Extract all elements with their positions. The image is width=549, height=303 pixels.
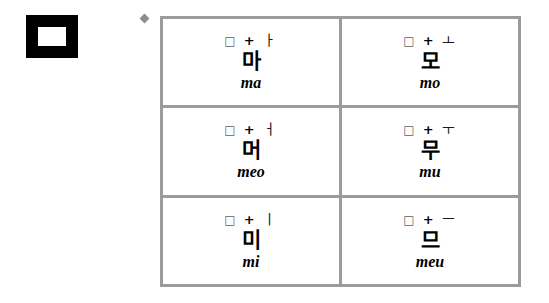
- consonant-placeholder: □: [224, 123, 237, 137]
- syllable-cell-mi: □ + ㅣ 미 mi: [162, 196, 341, 285]
- consonant-placeholder: □: [403, 213, 416, 227]
- cell-content: □ + ㅡ 므 meu: [342, 212, 518, 270]
- table-row: □ + ㅏ 마 ma □ + ㅗ: [162, 18, 520, 107]
- consonant-placeholder: □: [224, 213, 237, 227]
- syllable-cell-ma: □ + ㅏ 마 ma: [162, 18, 341, 107]
- formula-line: □ + ㅓ: [224, 122, 278, 136]
- romanization-label: meo: [237, 164, 265, 180]
- romanization-label: mu: [419, 164, 440, 180]
- plus-operator: +: [423, 33, 436, 48]
- vowel-jamo: ㅏ: [263, 32, 278, 48]
- vowel-jamo: ㅣ: [263, 211, 278, 227]
- romanization-label: ma: [241, 75, 261, 91]
- vowel-jamo: ㅗ: [442, 32, 457, 48]
- vowel-jamo: ㅜ: [442, 121, 457, 137]
- plus-operator: +: [423, 122, 436, 137]
- diamond-bullet-icon: [140, 14, 150, 24]
- romanization-label: mo: [420, 75, 440, 91]
- cell-content: □ + ㅓ 머 meo: [163, 122, 339, 180]
- consonant-placeholder: □: [403, 34, 416, 48]
- syllable-glyph: 므: [421, 230, 440, 251]
- table-row: □ + ㅓ 머 meo □ + ㅜ: [162, 107, 520, 196]
- syllable-glyph: 마: [242, 51, 261, 72]
- cell-content: □ + ㅗ 모 mo: [342, 33, 518, 91]
- syllable-table-body: □ + ㅏ 마 ma □ + ㅗ: [162, 18, 520, 286]
- consonant-glyph-inner: [38, 27, 66, 46]
- page-root: □ + ㅏ 마 ma □ + ㅗ: [0, 0, 549, 303]
- plus-operator: +: [423, 212, 436, 227]
- formula-line: □ + ㅜ: [403, 122, 457, 136]
- cell-content: □ + ㅣ 미 mi: [163, 212, 339, 270]
- syllable-cell-mo: □ + ㅗ 모 mo: [341, 18, 520, 107]
- syllable-glyph: 모: [421, 51, 440, 72]
- syllable-table: □ + ㅏ 마 ma □ + ㅗ: [160, 16, 521, 287]
- syllable-cell-meu: □ + ㅡ 므 meu: [341, 196, 520, 285]
- consonant-glyph-block: [26, 15, 78, 58]
- cell-content: □ + ㅏ 마 ma: [163, 33, 339, 91]
- syllable-glyph: 미: [242, 230, 261, 251]
- vowel-jamo: ㅓ: [263, 121, 278, 137]
- syllable-cell-meo: □ + ㅓ 머 meo: [162, 107, 341, 196]
- romanization-label: mi: [243, 254, 260, 270]
- formula-line: □ + ㅗ: [403, 33, 457, 47]
- plus-operator: +: [244, 33, 257, 48]
- plus-operator: +: [244, 122, 257, 137]
- syllable-glyph: 머: [242, 140, 261, 161]
- table-row: □ + ㅣ 미 mi □ + ㅡ: [162, 196, 520, 285]
- formula-line: □ + ㅏ: [224, 33, 278, 47]
- consonant-placeholder: □: [403, 123, 416, 137]
- plus-operator: +: [244, 212, 257, 227]
- consonant-placeholder: □: [224, 34, 237, 48]
- formula-line: □ + ㅡ: [403, 212, 457, 226]
- syllable-glyph: 무: [421, 140, 440, 161]
- cell-content: □ + ㅜ 무 mu: [342, 122, 518, 180]
- formula-line: □ + ㅣ: [224, 212, 278, 226]
- romanization-label: meu: [416, 254, 444, 270]
- vowel-jamo: ㅡ: [442, 211, 457, 227]
- syllable-cell-mu: □ + ㅜ 무 mu: [341, 107, 520, 196]
